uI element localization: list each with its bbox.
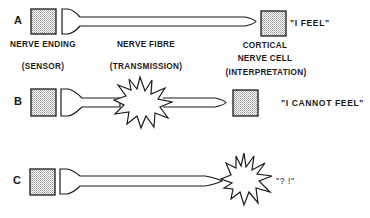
nerve-fibre-distal (163, 98, 226, 107)
cortical-cell-box (233, 90, 258, 116)
cortical-cell-box (261, 11, 286, 36)
nerve-fibre-shape (62, 9, 256, 34)
nerve-ending-box (31, 89, 56, 116)
diagram-canvas (0, 0, 370, 218)
nerve-ending-box (30, 169, 55, 195)
nerve-pathway-diagram: A B C NERVE ENDING (SENSOR) NERVE FIBRE … (0, 0, 370, 218)
cortex-caption-role: (INTERPRETATION) (220, 68, 312, 77)
row-label-c: C (13, 174, 21, 186)
row-a-graphic (31, 9, 286, 36)
quote-c: "? !" (276, 176, 295, 186)
fibre-caption-role: (TRANSMISSION) (98, 62, 194, 71)
row-c-graphic (30, 153, 272, 205)
cortex-caption-title-2: NERVE CELL (225, 54, 305, 63)
nerve-fibre-proximal (61, 89, 120, 116)
nerve-fibre-shape (60, 169, 222, 194)
lesion-burst-icon (114, 77, 172, 128)
sensor-caption-title: NERVE ENDING (0, 40, 86, 49)
cortex-caption-title-1: CORTICAL (225, 41, 305, 50)
quote-a: "I FEEL" (290, 18, 330, 28)
row-label-b: B (14, 95, 22, 107)
quote-b: "I CANNOT FEEL" (281, 98, 364, 108)
fibre-caption-title: NERVE FIBRE (98, 40, 194, 49)
row-label-a: A (14, 14, 22, 26)
cortical-burst-icon (221, 153, 272, 205)
row-b-graphic (31, 77, 258, 128)
sensor-caption-role: (SENSOR) (0, 62, 86, 71)
nerve-ending-box (31, 9, 56, 34)
